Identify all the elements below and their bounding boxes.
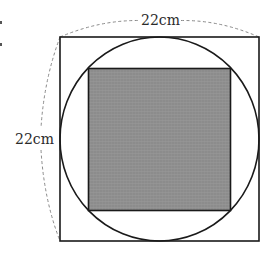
geometry-diagram: 22cm 22cm [0, 0, 276, 258]
left-side-label: 22cm [15, 131, 54, 147]
margin-marks [0, 21, 2, 46]
top-side-label: 22cm [141, 12, 180, 28]
inner-shaded-square [89, 69, 231, 211]
